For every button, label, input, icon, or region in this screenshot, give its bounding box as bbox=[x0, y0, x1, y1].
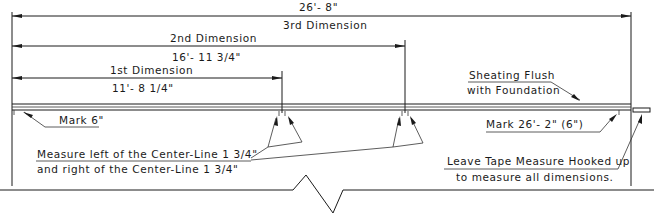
first-dimension-value: 11'- 8 1/4" bbox=[112, 82, 174, 94]
framing-layout-diagram: 26'- 8" 3rd Dimension 2nd Dimension 16'-… bbox=[0, 0, 654, 223]
first-dimension-label: 1st Dimension bbox=[110, 64, 193, 76]
first-dimension: 1st Dimension 11'- 8 1/4" bbox=[12, 64, 282, 113]
measure-note-line2: and right of the Center-Line 1 3/4" bbox=[37, 163, 239, 175]
second-dimension-value: 16'- 11 3/4" bbox=[172, 51, 241, 63]
tape-note-line2: to measure all dimensions. bbox=[456, 171, 613, 183]
tape-note-line1: Leave Tape Measure Hooked up bbox=[447, 155, 630, 167]
wall-plate bbox=[12, 104, 631, 110]
measure-leaders bbox=[251, 116, 423, 160]
measure-note-line1: Measure left of the Center-Line 1 3/4" bbox=[37, 148, 258, 160]
second-dimension-label: 2nd Dimension bbox=[170, 32, 257, 44]
mark-start-note: Mark 6" bbox=[14, 110, 104, 127]
tape-hook bbox=[633, 108, 650, 112]
mark-start-label: Mark 6" bbox=[59, 114, 104, 126]
measure-note: Measure left of the Center-Line 1 3/4" a… bbox=[36, 148, 258, 175]
second-dimension: 2nd Dimension 16'- 11 3/4" bbox=[12, 32, 405, 113]
sheathing-note-line2: with Foundation bbox=[467, 84, 560, 96]
mark-end-label: Mark 26'- 2" (6") bbox=[486, 118, 583, 130]
sheathing-note: Sheating Flush with Foundation bbox=[467, 69, 580, 101]
sheathing-note-line1: Sheating Flush bbox=[469, 69, 555, 81]
mark-end-note: Mark 26'- 2" (6") bbox=[486, 110, 619, 132]
third-dimension: 26'- 8" 3rd Dimension bbox=[12, 1, 631, 31]
third-dimension-value: 26'- 8" bbox=[299, 1, 338, 13]
third-dimension-label: 3rd Dimension bbox=[283, 19, 367, 31]
